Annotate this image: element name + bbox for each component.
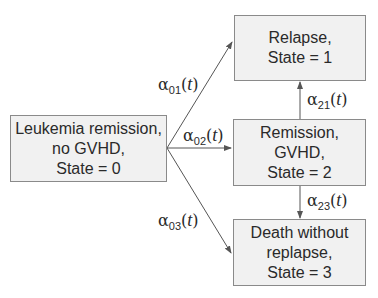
rate-subscript: 23 (318, 200, 330, 212)
state-1-line-2: State = 1 (268, 48, 333, 68)
rate-label-01: α01(t) (158, 74, 199, 96)
rate-argument: t (187, 210, 192, 230)
rate-subscript: 01 (169, 84, 181, 96)
state-2-box: Remission, GVHD, State = 2 (233, 119, 366, 186)
state-0-line-3: State = 0 (56, 159, 121, 179)
state-3-line-3: State = 3 (267, 263, 332, 283)
state-1-line-1: Relapse, (268, 28, 331, 48)
alpha-symbol: α (307, 90, 318, 109)
rate-label-23: α23(t) (307, 190, 348, 212)
alpha-symbol: α (158, 75, 169, 94)
rate-argument: t (187, 74, 192, 94)
rate-subscript: 02 (194, 135, 206, 147)
state-2-line-3: State = 2 (267, 163, 332, 183)
state-0-line-2: no GVHD, (52, 139, 125, 159)
state-3-line-2: replapse, (267, 243, 333, 263)
state-2-line-1: Remission, (260, 123, 339, 143)
state-3-box: Death without replapse, State = 3 (233, 219, 366, 286)
state-3-line-1: Death without (251, 223, 349, 243)
state-0-line-1: Leukemia remission, (15, 119, 162, 139)
alpha-symbol: α (183, 126, 194, 145)
rate-label-02: α02(t) (183, 125, 224, 147)
alpha-symbol: α (307, 191, 318, 210)
rate-subscript: 03 (169, 220, 181, 232)
alpha-symbol: α (158, 211, 169, 230)
state-1-box: Relapse, State = 1 (234, 15, 366, 81)
rate-label-21: α21(t) (307, 89, 348, 111)
arrow-0-to-3 (167, 148, 231, 253)
rate-argument: t (336, 89, 341, 109)
rate-argument: t (336, 190, 341, 210)
state-2-line-2: GVHD, (274, 143, 325, 163)
rate-argument: t (212, 125, 217, 145)
state-0-box: Leukemia remission, no GVHD, State = 0 (10, 115, 167, 182)
rate-label-03: α03(t) (158, 210, 199, 232)
rate-subscript: 21 (318, 99, 330, 111)
